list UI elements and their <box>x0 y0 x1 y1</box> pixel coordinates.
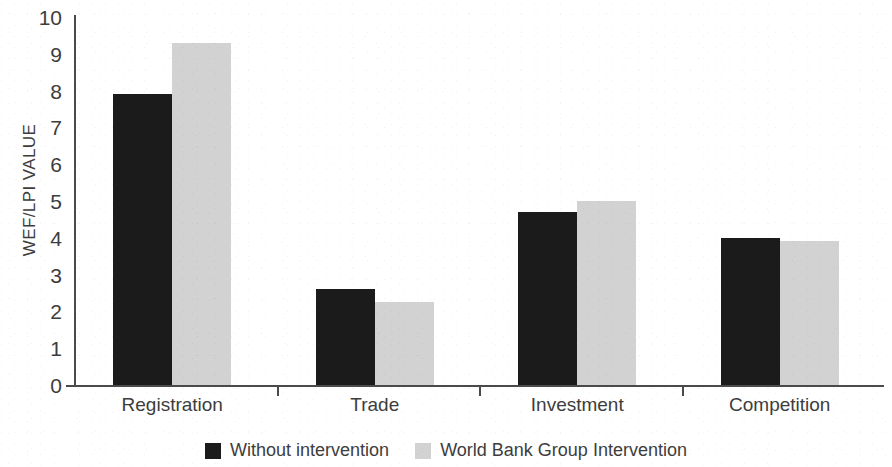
x-axis-tick-mark <box>277 386 279 396</box>
y-axis-tick-label: 5 <box>16 191 62 212</box>
y-axis-line <box>74 15 76 387</box>
bar <box>780 241 839 385</box>
y-axis-tick-label: 3 <box>16 264 62 285</box>
legend-label: World Bank Group Intervention <box>440 440 687 461</box>
x-axis-tick-mark <box>682 386 684 396</box>
legend-item-world-bank-group-intervention: World Bank Group Intervention <box>415 440 687 461</box>
legend-item-without-intervention: Without intervention <box>205 440 389 461</box>
x-axis-category-label: Investment <box>531 394 624 416</box>
y-axis-tick-label: 10 <box>16 7 62 28</box>
bar <box>577 201 636 385</box>
x-axis-category-label: Trade <box>350 394 399 416</box>
y-axis-tick-label: 0 <box>16 375 62 396</box>
legend-swatch-icon <box>415 443 431 459</box>
plot-area: 012345678910 <box>74 17 884 385</box>
bar <box>518 212 577 385</box>
bar <box>721 238 780 385</box>
y-axis-tick-label: 8 <box>16 80 62 101</box>
bar-chart: WEF/LPI VALUE 012345678910 RegistrationT… <box>0 0 892 467</box>
legend-swatch-icon <box>205 443 221 459</box>
x-axis-line <box>66 385 884 387</box>
x-axis-category-label: Competition <box>729 394 830 416</box>
y-axis-tick-label: 7 <box>16 117 62 138</box>
bar <box>375 302 434 385</box>
legend-label: Without intervention <box>230 440 389 461</box>
x-axis-tick-mark <box>479 386 481 396</box>
x-axis-category-label: Registration <box>122 394 223 416</box>
y-axis-tick-label: 2 <box>16 301 62 322</box>
bar <box>316 289 375 385</box>
bar <box>113 94 172 385</box>
y-axis-tick-label: 6 <box>16 154 62 175</box>
chart-legend: Without intervention World Bank Group In… <box>0 440 892 461</box>
y-axis-tick-label: 9 <box>16 43 62 64</box>
bar <box>172 43 231 385</box>
y-axis-tick-label: 4 <box>16 227 62 248</box>
y-axis-tick-label: 1 <box>16 338 62 359</box>
